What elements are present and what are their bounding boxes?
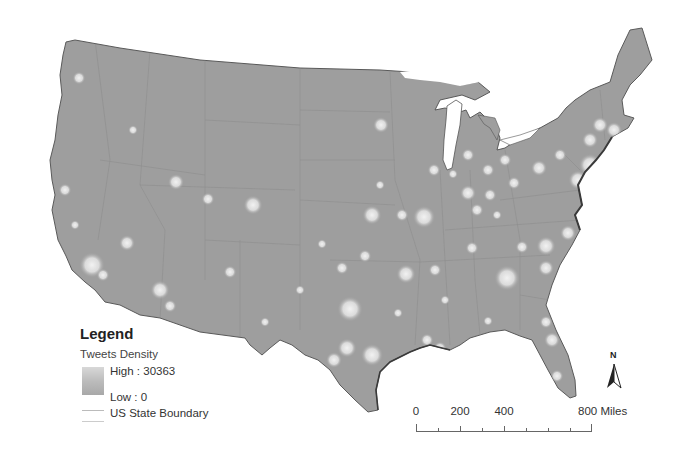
north-label: N — [610, 350, 617, 360]
density-hotspot — [592, 117, 608, 133]
density-hotspot — [483, 316, 493, 326]
density-hotspot — [393, 308, 403, 318]
density-hotspot — [484, 189, 497, 202]
density-hotspot — [516, 241, 529, 254]
density-hotspot — [606, 122, 622, 138]
density-hotspot — [164, 300, 177, 313]
density-hotspot — [260, 317, 270, 327]
legend-boundary-label: US State Boundary — [110, 407, 208, 419]
density-hotspot — [508, 177, 521, 190]
density-hotspot — [362, 205, 381, 224]
density-hotspot — [460, 185, 476, 201]
legend-high-label: High : 30363 — [110, 365, 175, 377]
legend-layer-name: Tweets Density — [80, 348, 250, 360]
density-hotspot — [337, 338, 356, 357]
scale-bar-line — [416, 425, 592, 432]
density-hotspot — [440, 295, 450, 305]
density-hotspot — [544, 332, 560, 348]
density-hotspot — [462, 149, 475, 162]
density-hotspot — [413, 206, 435, 228]
density-hotspot — [337, 296, 363, 322]
density-hotspot — [295, 285, 305, 295]
density-hotspot — [336, 262, 349, 275]
density-hotspot — [560, 225, 576, 241]
scale-label-800: 800 Miles — [578, 405, 627, 417]
density-hotspot — [492, 210, 502, 220]
density-hotspot — [554, 149, 567, 162]
map-legend: Legend Tweets Density High : 30363 Low :… — [80, 325, 250, 423]
density-hotspot — [359, 250, 372, 263]
density-hotspot — [448, 169, 458, 179]
density-hotspot — [428, 164, 441, 177]
density-hotspot — [396, 209, 409, 222]
legend-title: Legend — [80, 325, 250, 342]
density-hotspot — [128, 125, 138, 135]
boundary-row: US State Boundary — [80, 407, 250, 423]
density-hotspot — [243, 195, 262, 214]
density-hotspot — [540, 316, 553, 329]
density-hotspot — [224, 266, 237, 279]
density-hotspot — [73, 72, 86, 85]
scale-bar: 0 200 400 800 Miles — [410, 405, 650, 435]
density-hotspot — [551, 370, 564, 383]
density-hotspot — [429, 264, 442, 277]
density-hotspot — [317, 239, 327, 249]
density-hotspot — [396, 264, 415, 283]
density-hotspot — [582, 132, 598, 148]
density-hotspot — [482, 164, 495, 177]
north-arrow-icon — [604, 362, 628, 392]
scale-label-200: 200 — [450, 405, 469, 417]
density-hotspot — [494, 265, 520, 291]
density-hotspot — [326, 352, 342, 368]
density-hotspot — [536, 236, 555, 255]
density-hotspot — [70, 220, 80, 230]
density-hotspot — [97, 269, 110, 282]
density-color-ramp — [82, 367, 104, 395]
density-hotspot — [150, 280, 169, 299]
density-hotspot — [471, 204, 484, 217]
density-hotspot — [168, 174, 184, 190]
density-hotspot — [538, 260, 554, 276]
density-hotspot — [375, 180, 385, 190]
density-hotspot — [202, 193, 215, 206]
density-hotspot — [531, 160, 547, 176]
north-arrow: N — [604, 350, 628, 390]
legend-low-label: Low : 0 — [110, 391, 147, 403]
density-hotspot — [119, 235, 135, 251]
density-hotspot — [421, 334, 434, 347]
density-hotspot — [361, 344, 383, 366]
scale-label-0: 0 — [413, 405, 419, 417]
density-hotspot — [373, 117, 389, 133]
density-hotspot — [499, 154, 512, 167]
density-hotspot — [466, 242, 479, 255]
density-hotspot — [59, 184, 72, 197]
density-ramp-row: High : 30363 Low : 0 — [80, 363, 250, 403]
state-boundary-swatch — [82, 410, 104, 422]
scale-label-400: 400 — [494, 405, 513, 417]
